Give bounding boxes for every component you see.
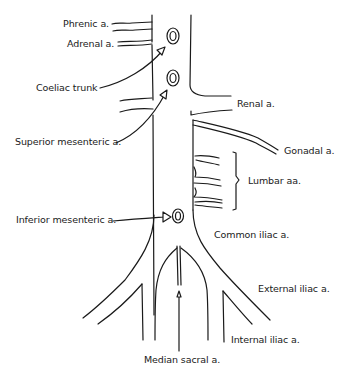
left-renal-upper	[120, 98, 152, 101]
label-lumbar: Lumbar aa.	[248, 176, 301, 186]
coeliac-trunk-inner	[170, 32, 176, 41]
label-median-sacral: Median sacral a.	[144, 355, 220, 365]
label-gonadal: Gonadal a.	[284, 146, 334, 156]
left-external-iliac-lower	[98, 284, 142, 324]
gonadal-artery-bottom	[193, 125, 276, 154]
lumbar-1	[195, 156, 219, 158]
iliac-inner-left	[155, 248, 177, 340]
lumbar-5	[195, 201, 222, 203]
lumbar-4	[194, 188, 222, 200]
coeliac-arrow-line	[100, 50, 163, 88]
left-internal-iliac	[142, 284, 143, 340]
phrenic-artery-top	[112, 22, 152, 24]
lumbar-1b	[196, 160, 219, 165]
label-external-iliac: External iliac a.	[258, 284, 330, 294]
label-common-iliac: Common iliac a.	[214, 230, 289, 240]
label-coeliac: Coeliac trunk	[36, 83, 98, 93]
aorta-left-lower-wall	[83, 215, 154, 318]
inferior-mesenteric-arrow-head	[163, 212, 171, 222]
lumbar-6	[195, 205, 222, 208]
superior-mesenteric-outer	[167, 70, 179, 86]
superior-mesenteric-inner	[170, 74, 176, 83]
left-renal-lower	[120, 109, 153, 112]
coeliac-arrow-head	[157, 47, 165, 55]
lumbar-bracket	[233, 152, 239, 210]
label-inferior-mesenteric: Inferior mesenteric a.	[16, 215, 116, 225]
superior-mesenteric-arrow-head	[160, 90, 167, 99]
aorta-drawing	[0, 0, 343, 380]
right-renal-lower	[191, 110, 232, 115]
gonadal-artery-top	[193, 120, 278, 150]
median-sacral-right	[180, 246, 181, 285]
superior-mesenteric-arrow-line	[116, 94, 165, 143]
lumbar-2	[194, 167, 220, 180]
inferior-mesenteric-arrow-line	[113, 217, 164, 221]
aorta-diagram: Phrenic a. Adrenal a. Coeliac trunk Rena…	[0, 0, 343, 380]
lumbar-3	[194, 183, 221, 186]
coeliac-trunk-outer	[167, 28, 179, 44]
adrenal-artery-bottom	[118, 44, 152, 46]
median-sacral-arrow-head	[177, 291, 181, 297]
label-phrenic: Phrenic a.	[63, 19, 109, 29]
inferior-mesenteric-outer	[173, 209, 184, 223]
inferior-mesenteric-inner	[176, 212, 181, 220]
median-sacral-left	[177, 246, 178, 285]
right-internal-iliac-outer	[223, 291, 224, 342]
aorta-right-lower-wall	[193, 210, 270, 320]
adrenal-artery-top	[118, 40, 152, 42]
label-superior-mesenteric: Superior mesenteric a.	[15, 137, 121, 147]
label-renal: Renal a.	[237, 99, 275, 109]
phrenic-artery-bottom	[113, 29, 152, 31]
iliac-inner-right	[181, 248, 208, 340]
label-adrenal: Adrenal a.	[67, 39, 114, 49]
aorta-right-wall	[190, 15, 231, 96]
label-internal-iliac: Internal iliac a.	[231, 335, 300, 345]
right-internal-iliac-inner	[223, 291, 252, 324]
